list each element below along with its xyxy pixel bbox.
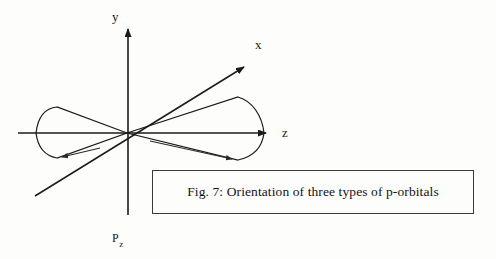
figure-caption-text: Fig. 7: Orientation of three types of p-… xyxy=(187,184,439,200)
figure-caption-box: Fig. 7: Orientation of three types of p-… xyxy=(152,170,474,214)
orbital-label-pz-base: P xyxy=(112,231,119,245)
figure-container: y x z Pz Fig. 7: Orientation of three ty… xyxy=(0,0,496,259)
orbital-label-pz: Pz xyxy=(112,232,123,247)
lobe-edge-tick-right-icon xyxy=(150,141,232,159)
orbital-diagram xyxy=(0,0,496,259)
orbital-label-pz-subscript: z xyxy=(119,239,123,249)
axis-label-z: z xyxy=(282,126,288,139)
axis-label-x: x xyxy=(255,38,262,51)
axis-label-y: y xyxy=(112,10,119,23)
